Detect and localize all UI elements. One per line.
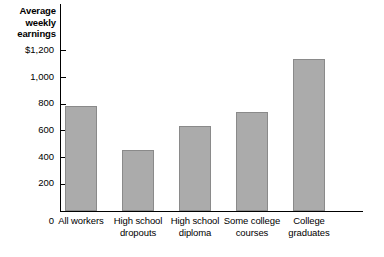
y-axis-line <box>60 4 61 212</box>
x-axis-line <box>60 211 363 212</box>
y-axis-tick-label: 400 <box>2 152 54 162</box>
y-axis-title-line-3: earnings <box>0 28 56 40</box>
x-axis-category-label-line: dropouts <box>110 227 167 239</box>
bar <box>122 150 154 211</box>
y-axis-tick-label: 600 <box>2 125 54 135</box>
bar <box>293 59 325 211</box>
x-axis-category-label: High schooldropouts <box>110 215 167 238</box>
bar <box>65 106 97 211</box>
x-axis-category-label: Collegegraduates <box>281 215 338 238</box>
origin-zero-label: 0 <box>36 215 54 226</box>
bar <box>236 112 268 211</box>
x-axis-category-label-line: High school <box>110 215 167 227</box>
y-axis-tick <box>61 50 66 51</box>
x-axis-category-label-line: diploma <box>167 227 224 239</box>
y-axis-tick <box>61 77 66 78</box>
y-axis-tick-label: $1,200 <box>2 45 54 55</box>
x-axis-category-label-line: College <box>281 215 338 227</box>
x-axis-category-label: Some collegecourses <box>224 215 281 238</box>
x-axis-category-label-line: Some college <box>224 215 281 227</box>
x-axis-category-label-line: High school <box>167 215 224 227</box>
x-axis-category-label-line: All workers <box>53 215 110 227</box>
x-axis-category-label: All workers <box>53 215 110 227</box>
x-axis-category-label: High schooldiploma <box>167 215 224 238</box>
y-axis-tick-label: 800 <box>2 98 54 108</box>
x-axis-category-label-line: courses <box>224 227 281 239</box>
y-axis-tick <box>61 104 66 105</box>
y-axis-title-line-2: weekly <box>0 17 56 29</box>
y-axis-tick-label: 200 <box>2 178 54 188</box>
x-axis-category-label-line: graduates <box>281 227 338 239</box>
bar <box>179 126 211 211</box>
y-axis-title: Average weekly earnings <box>0 5 56 40</box>
bar-chart: Average weekly earnings 2004006008001,00… <box>0 0 384 257</box>
y-axis-title-line-1: Average <box>0 5 56 17</box>
y-axis-tick-label: 1,000 <box>2 72 54 82</box>
